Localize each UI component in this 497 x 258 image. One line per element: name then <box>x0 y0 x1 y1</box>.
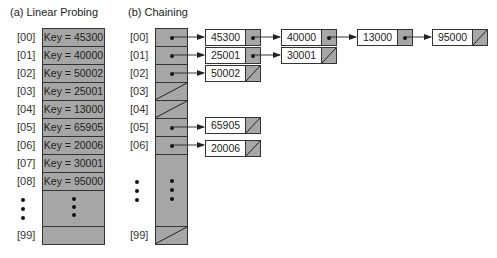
arrow-icon <box>171 37 431 145</box>
null-slash-icon <box>155 30 487 244</box>
connector-overlay <box>0 0 497 258</box>
